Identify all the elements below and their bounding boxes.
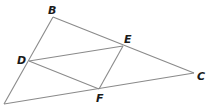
segment-ab xyxy=(4,17,53,104)
label-c: C xyxy=(197,70,205,83)
segment-fd xyxy=(29,61,99,89)
segment-de xyxy=(29,46,123,61)
label-e: E xyxy=(124,33,132,46)
segments xyxy=(4,17,194,104)
vertex-labels: B C D E F xyxy=(17,4,205,105)
label-b: B xyxy=(48,4,56,17)
label-d: D xyxy=(17,54,26,67)
segment-ef xyxy=(99,46,123,89)
geometry-diagram: B C D E F xyxy=(0,0,207,107)
label-f: F xyxy=(96,92,104,105)
diagram-canvas: B C D E F xyxy=(0,0,207,107)
